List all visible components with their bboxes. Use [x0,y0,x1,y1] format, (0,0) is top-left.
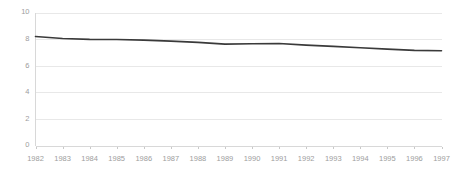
x-tick-label: 1985 [108,154,125,163]
x-tick-label: 1982 [27,154,44,163]
x-tick-label: 1984 [81,154,98,163]
y-tick-label: 8 [25,34,29,43]
x-tick-label: 1997 [433,154,450,163]
y-tick-label: 4 [25,87,29,96]
x-tick-label: 1986 [135,154,152,163]
chart-canvas: 0246810 19821983198419851986198719881989… [0,0,455,174]
x-tick-label: 1996 [406,154,423,163]
line-chart: 0246810 19821983198419851986198719881989… [0,0,455,174]
x-tick-label: 1995 [379,154,396,163]
x-tick-label: 1987 [162,154,179,163]
x-tick-label: 1992 [298,154,315,163]
x-tick-label: 1994 [352,154,369,163]
x-tick-label: 1983 [54,154,71,163]
x-tick-label: 1989 [217,154,234,163]
y-tick-label: 10 [21,7,29,16]
x-tick-label: 1991 [271,154,288,163]
y-tick-label: 2 [25,114,29,123]
x-tick-label: 1988 [190,154,207,163]
chart-background [0,0,455,174]
y-tick-label: 6 [25,61,29,70]
y-tick-label: 0 [25,140,29,149]
x-tick-label: 1990 [244,154,261,163]
x-tick-label: 1993 [325,154,342,163]
